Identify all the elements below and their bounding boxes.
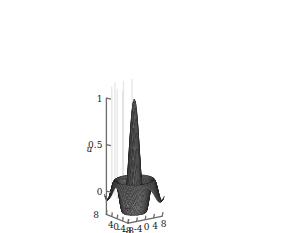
y-tick-label-4: -8 <box>123 226 132 233</box>
y-axis-title: y <box>105 231 112 233</box>
surface-plot-figure: 00.51u-8-4048x840-4-8y <box>0 0 291 233</box>
y-tick-4 <box>128 219 129 223</box>
x-tick-2 <box>145 216 146 220</box>
x-tick-1 <box>137 217 138 221</box>
x-tick-label-2: 0 <box>144 222 150 232</box>
z-tick-0 <box>106 191 111 192</box>
z-axis-title: u <box>87 144 93 154</box>
y-tick-3 <box>123 217 124 221</box>
x-tick-label-1: -4 <box>134 224 143 233</box>
x-tick-label-3: 4 <box>152 221 158 231</box>
y-tick-label-0: 8 <box>93 210 99 220</box>
y-tick-2 <box>117 215 118 219</box>
x-tick-label-4: 8 <box>161 219 167 229</box>
x-axis-title: x <box>145 232 150 233</box>
mesh-surface <box>104 99 164 215</box>
surface-plot-canvas: 00.51u-8-4048x840-4-8y <box>0 0 291 233</box>
y-tick-0 <box>106 210 107 214</box>
y-tick-1 <box>112 212 113 216</box>
x-tick-3 <box>154 214 155 218</box>
x-tick-4 <box>162 212 163 216</box>
z-tick-2 <box>106 98 111 99</box>
z-tick-1 <box>106 145 111 146</box>
z-tick-label-0: 0 <box>97 187 103 197</box>
z-tick-label-2: 1 <box>97 94 103 104</box>
